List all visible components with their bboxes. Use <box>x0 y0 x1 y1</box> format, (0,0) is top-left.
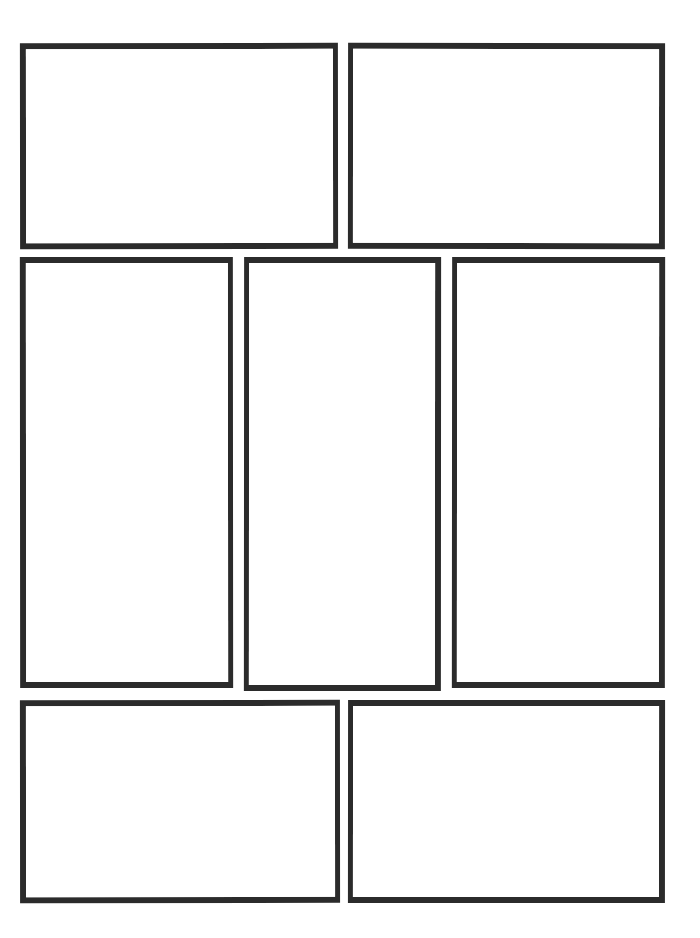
panel-2-artwork-area[interactable] <box>353 49 659 243</box>
panel-3-artwork-area[interactable] <box>26 263 228 682</box>
panel-6-artwork-area[interactable] <box>26 706 335 897</box>
comic-panel-5[interactable] <box>452 257 665 688</box>
panel-5-artwork-area[interactable] <box>457 263 659 682</box>
comic-panel-6[interactable] <box>20 700 340 903</box>
comic-panel-4[interactable] <box>244 257 441 691</box>
comic-page <box>0 0 700 938</box>
panel-7-artwork-area[interactable] <box>353 706 659 897</box>
comic-panel-3[interactable] <box>20 257 233 688</box>
panel-1-artwork-area[interactable] <box>26 49 333 243</box>
panel-4-artwork-area[interactable] <box>249 263 435 685</box>
comic-panel-2[interactable] <box>348 43 665 249</box>
comic-panel-7[interactable] <box>348 700 665 903</box>
comic-panel-1[interactable] <box>20 43 338 249</box>
